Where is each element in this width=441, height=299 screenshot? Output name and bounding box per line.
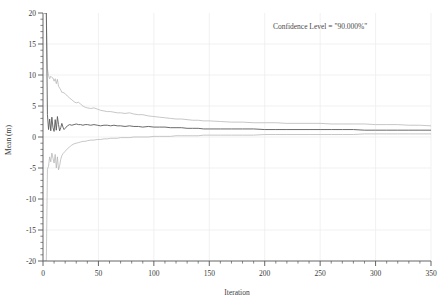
x-tick-label: 250 bbox=[315, 269, 327, 278]
x-tick-label: 350 bbox=[425, 269, 437, 278]
confidence-level-annotation: Confidence Level = "90.000%" bbox=[273, 22, 368, 31]
x-tick-label: 0 bbox=[41, 269, 45, 278]
y-tick-label: -10 bbox=[26, 195, 36, 204]
x-tick-label: 100 bbox=[148, 269, 160, 278]
y-tick-label: 20 bbox=[29, 9, 37, 18]
x-tick-label: 300 bbox=[370, 269, 382, 278]
x-tick-label: 50 bbox=[95, 269, 103, 278]
x-tick-label: 200 bbox=[259, 269, 271, 278]
x-tick-label: 150 bbox=[204, 269, 216, 278]
y-tick-label: 5 bbox=[32, 102, 36, 111]
y-tick-label: 0 bbox=[32, 133, 36, 142]
chart-container: 20151050-5-10-15-20050100150200250300350… bbox=[0, 0, 441, 299]
y-tick-label: -15 bbox=[26, 226, 36, 235]
y-tick-label: 10 bbox=[29, 71, 37, 80]
x-axis-title: Iteration bbox=[224, 288, 250, 297]
plot-background bbox=[0, 0, 441, 299]
y-tick-label: -5 bbox=[30, 164, 36, 173]
convergence-chart: 20151050-5-10-15-20050100150200250300350… bbox=[0, 0, 441, 299]
y-tick-label: -20 bbox=[26, 257, 36, 266]
y-tick-label: 15 bbox=[29, 40, 37, 49]
y-axis-title: Mean (m) bbox=[4, 125, 13, 155]
